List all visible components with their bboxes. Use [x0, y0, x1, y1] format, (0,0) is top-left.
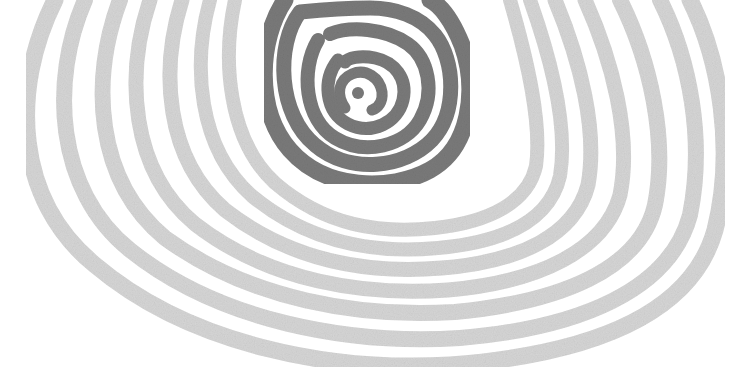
center-dot	[352, 87, 364, 99]
inner-rings	[264, 0, 469, 184]
concentric-rings-illustration: Hand-drawn concentric ring illustration:…	[0, 0, 741, 379]
